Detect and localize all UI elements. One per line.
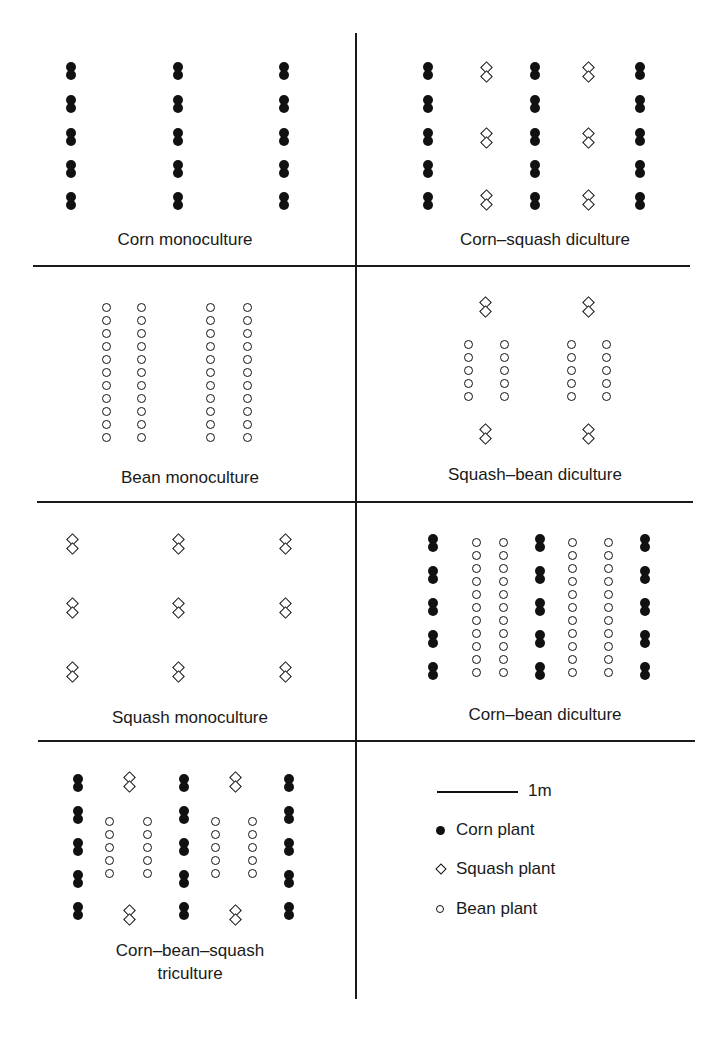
bean-plant-icon — [248, 843, 257, 852]
panel-label-bean-monoculture: Bean monoculture — [40, 467, 340, 488]
bean-plant-icon — [472, 642, 481, 651]
bean-plant-icon — [568, 590, 577, 599]
bean-plant-icon — [243, 381, 252, 390]
corn-plant-icon — [423, 128, 433, 146]
corn-plant-icon — [284, 774, 294, 792]
bean-plant-icon — [464, 353, 473, 362]
corn-plant-icon — [530, 128, 540, 146]
bean-plant-icon — [102, 355, 111, 364]
corn-plant-icon — [173, 95, 183, 113]
corn-plant-icon — [66, 160, 76, 178]
corn-plant-icon — [640, 630, 650, 648]
bean-plant-icon — [604, 668, 613, 677]
bean-plant-icon — [248, 817, 257, 826]
corn-plant-icon — [428, 662, 438, 680]
bean-plant-icon — [464, 379, 473, 388]
corn-plant-icon — [635, 160, 645, 178]
bean-plant-icon — [568, 577, 577, 586]
corn-plant-icon — [66, 192, 76, 210]
bean-plant-icon — [499, 642, 508, 651]
legend-item-corn: Corn plant — [436, 820, 534, 840]
corn-plant-icon — [436, 826, 445, 835]
bean-plant-icon — [243, 355, 252, 364]
bean-plant-icon — [105, 830, 114, 839]
corn-plant-icon — [284, 870, 294, 888]
bean-plant-icon — [102, 420, 111, 429]
corn-plant-icon — [535, 662, 545, 680]
squash-plant-icon — [435, 863, 446, 874]
bean-plant-icon — [602, 392, 611, 401]
squash-plant-icon — [123, 772, 135, 792]
corn-plant-icon — [640, 662, 650, 680]
corn-plant-icon — [635, 128, 645, 146]
corn-plant-icon — [279, 62, 289, 80]
bean-plant-icon — [602, 340, 611, 349]
bean-plant-icon — [602, 366, 611, 375]
bean-plant-icon — [464, 340, 473, 349]
bean-plant-icon — [604, 642, 613, 651]
corn-plant-icon — [179, 806, 189, 824]
squash-plant-icon — [172, 598, 184, 618]
bean-plant-icon — [499, 629, 508, 638]
bean-plant-icon — [567, 353, 576, 362]
corn-plant-icon — [635, 62, 645, 80]
bean-plant-icon — [499, 590, 508, 599]
bean-plant-icon — [568, 629, 577, 638]
bean-plant-icon — [436, 905, 444, 913]
bean-plant-icon — [137, 420, 146, 429]
bean-plant-icon — [143, 869, 152, 878]
panel-label-squash-monoculture: Squash monoculture — [40, 707, 340, 728]
squash-plant-icon — [66, 598, 78, 618]
panel-label-corn-bean-diculture: Corn–bean diculture — [410, 704, 680, 725]
bean-plant-icon — [211, 843, 220, 852]
bean-plant-icon — [500, 353, 509, 362]
horizontal-divider-1 — [33, 265, 690, 267]
panel-label-corn-monoculture: Corn monoculture — [40, 229, 330, 250]
bean-plant-icon — [604, 590, 613, 599]
bean-plant-icon — [206, 407, 215, 416]
bean-plant-icon — [206, 381, 215, 390]
bean-plant-icon — [499, 668, 508, 677]
corn-plant-icon — [179, 838, 189, 856]
corn-plant-icon — [284, 902, 294, 920]
corn-plant-icon — [530, 160, 540, 178]
bean-plant-icon — [206, 420, 215, 429]
bean-plant-icon — [472, 629, 481, 638]
bean-plant-icon — [472, 538, 481, 547]
bean-plant-icon — [567, 340, 576, 349]
squash-plant-icon — [279, 662, 291, 682]
bean-plant-icon — [102, 381, 111, 390]
bean-plant-icon — [499, 538, 508, 547]
bean-plant-icon — [248, 869, 257, 878]
bean-plant-icon — [206, 316, 215, 325]
corn-plant-icon — [428, 630, 438, 648]
bean-plant-icon — [206, 329, 215, 338]
corn-plant-icon — [66, 95, 76, 113]
squash-plant-icon — [480, 128, 492, 148]
bean-plant-icon — [604, 538, 613, 547]
panel-label-triculture-line2: triculture — [40, 963, 340, 984]
bean-plant-icon — [137, 381, 146, 390]
corn-plant-icon — [423, 192, 433, 210]
corn-plant-icon — [73, 902, 83, 920]
corn-plant-icon — [428, 598, 438, 616]
bean-plant-icon — [500, 366, 509, 375]
bean-plant-icon — [464, 366, 473, 375]
bean-plant-icon — [472, 603, 481, 612]
scale-bar — [437, 791, 518, 793]
corn-plant-icon — [423, 95, 433, 113]
bean-plant-icon — [206, 303, 215, 312]
bean-plant-icon — [211, 830, 220, 839]
squash-plant-icon — [229, 905, 241, 925]
corn-plant-icon — [640, 534, 650, 552]
squash-plant-icon — [479, 424, 491, 444]
corn-plant-icon — [423, 160, 433, 178]
bean-plant-icon — [472, 551, 481, 560]
legend-item-squash: Squash plant — [436, 859, 555, 879]
bean-plant-icon — [206, 368, 215, 377]
squash-plant-icon — [229, 772, 241, 792]
bean-plant-icon — [243, 368, 252, 377]
squash-plant-icon — [480, 190, 492, 210]
bean-plant-icon — [499, 564, 508, 573]
bean-plant-icon — [243, 420, 252, 429]
